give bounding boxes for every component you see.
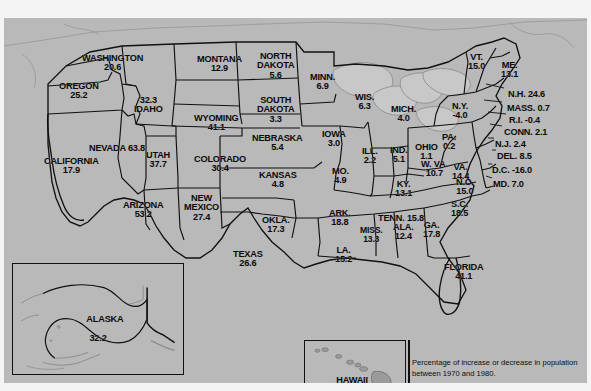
state-label: R.I. -0.4 — [509, 116, 540, 125]
state-name: IDAHO — [134, 105, 163, 114]
state-name: D.C. — [492, 165, 510, 175]
state-value: 41.1 — [444, 272, 483, 281]
state-value: 2.1 — [535, 127, 547, 137]
state-value: 18.8 — [329, 218, 351, 227]
state-value: 14.4 — [452, 172, 469, 181]
caption-text: Percentage of increase or decrease in po… — [408, 357, 580, 379]
state-value: 8.5 — [520, 151, 532, 161]
state-label: LA.15.2 — [335, 246, 352, 265]
state-value: 24.6 — [528, 89, 545, 99]
state-label: WIS.6.3 — [355, 93, 374, 112]
state-value: -4.0 — [452, 111, 468, 120]
state-label: UTAH37.7 — [146, 151, 170, 170]
state-label: FLORIDA41.1 — [444, 263, 483, 282]
state-name: MASS. — [507, 103, 535, 113]
state-label: IND.5.1 — [390, 146, 408, 165]
state-label: NEVADA 63.8 — [89, 144, 145, 153]
state-label: 32.3IDAHO — [134, 96, 163, 115]
state-value: 13.1 — [395, 189, 412, 198]
state-value: 15.0 — [456, 187, 474, 196]
state-label: MO.4.9 — [332, 167, 349, 186]
state-label: MASS. 0.7 — [507, 104, 550, 113]
population-change-map: .land{fill:#b9b9b9;stroke:#111;stroke-wi… — [4, 18, 587, 383]
state-label: MD. 7.0 — [493, 180, 524, 189]
state-value: 15.0 — [468, 62, 485, 71]
state-value: 4.8 — [259, 180, 297, 189]
state-value: 20.6 — [82, 63, 143, 72]
state-label: IOWA3.0 — [322, 130, 346, 149]
state-value: 26.6 — [233, 259, 263, 268]
state-label: TEXAS26.6 — [233, 250, 263, 269]
state-label: WASHINGTON20.6 — [82, 54, 143, 73]
state-value: 41.1 — [194, 123, 239, 132]
alaska-inset: ALASKA 32.2 — [12, 263, 184, 375]
state-label: MICH.4.0 — [391, 105, 416, 124]
state-name: SOUTH DAKOTA — [257, 95, 294, 114]
state-label: NEBRASKA5.4 — [252, 134, 302, 153]
state-label: ILL.2.2 — [362, 147, 378, 166]
state-label: ARIZONA53.2 — [123, 201, 163, 220]
state-label: GA.17.8 — [423, 221, 440, 240]
state-value: 2.2 — [362, 156, 378, 165]
state-name: CONN. — [504, 127, 533, 137]
state-label: ALA.12.4 — [393, 223, 414, 242]
state-label: NEW MEXICO27.4 — [184, 194, 219, 222]
state-value: 30.4 — [194, 164, 246, 173]
state-label: OREGON25.2 — [59, 82, 99, 101]
state-value: 27.4 — [184, 213, 219, 222]
state-value: 17.3 — [262, 225, 290, 234]
hawaii-inset: HAWAII 25.3 — [304, 340, 406, 383]
state-value: 15.2 — [335, 255, 352, 264]
state-label: KANSAS4.8 — [259, 171, 297, 190]
state-value: 6.3 — [355, 102, 374, 111]
state-name: N.H. — [508, 89, 526, 99]
state-value: 25.2 — [59, 91, 99, 100]
state-label: PA.0.2 — [442, 133, 456, 152]
state-name: N.J. — [495, 139, 511, 149]
alaska-name: ALASKA — [86, 314, 123, 324]
state-value: 2.4 — [513, 139, 525, 149]
state-label: N.Y.-4.0 — [452, 102, 468, 121]
state-label: DEL. 8.5 — [497, 152, 532, 161]
state-label: ME.13.1 — [501, 61, 518, 80]
state-value: 6.9 — [310, 82, 335, 91]
state-label: CALIFORNIA17.9 — [44, 157, 99, 176]
state-name: MD. — [493, 179, 509, 189]
state-label: CONN. 2.1 — [504, 128, 547, 137]
label-leader-lines — [484, 84, 506, 178]
hawaii-name: HAWAII — [336, 375, 367, 383]
state-label: VT.15.0 — [468, 53, 485, 72]
map-caption: Percentage of increase or decrease in po… — [408, 340, 580, 383]
state-value: 17.9 — [44, 166, 99, 175]
state-value: 18.5 — [451, 209, 468, 218]
state-value: 3.0 — [322, 139, 346, 148]
state-value: 12.9 — [197, 64, 242, 73]
alaska-value: 32.2 — [73, 334, 124, 343]
state-value: 37.7 — [146, 160, 170, 169]
state-value: -0.4 — [525, 115, 540, 125]
state-label: N.J. 2.4 — [495, 140, 526, 149]
state-label: KY.13.1 — [395, 180, 412, 199]
state-label: COLORADO30.4 — [194, 155, 246, 174]
state-value: 7.0 — [512, 179, 524, 189]
state-label: OKLA.17.3 — [262, 216, 290, 235]
state-value: 63.8 — [128, 143, 145, 153]
state-label: W. VA.10.7 — [421, 160, 448, 179]
state-name: R.I. — [509, 115, 523, 125]
state-label: D.C. -16.0 — [492, 166, 532, 175]
state-label: MINN.6.9 — [310, 73, 335, 92]
state-value: 5.4 — [252, 143, 302, 152]
state-label: N.H. 24.6 — [508, 90, 545, 99]
state-name: NORTH DAKOTA — [257, 51, 294, 70]
state-label: WYOMING41.1 — [194, 114, 239, 133]
alaska-label: ALASKA 32.2 — [73, 306, 124, 362]
state-value: 5.6 — [257, 71, 294, 80]
state-value: 53.2 — [123, 210, 163, 219]
state-name: NEVADA — [89, 143, 126, 153]
state-value: 13.1 — [501, 70, 518, 79]
caption-divider — [408, 340, 410, 383]
state-value: 3.3 — [257, 115, 294, 124]
state-value: 10.7 — [421, 169, 448, 178]
state-label: S.C.18.5 — [451, 200, 468, 219]
state-value: 12.4 — [393, 232, 414, 241]
